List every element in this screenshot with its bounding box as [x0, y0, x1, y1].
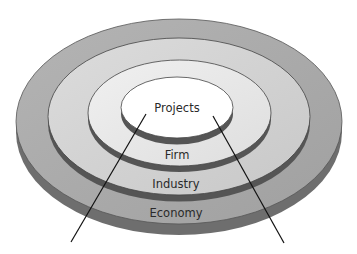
label-firm: Firm	[165, 148, 190, 162]
label-economy: Economy	[150, 206, 203, 220]
label-projects: Projects	[154, 101, 199, 115]
concentric-layers-diagram: Projects Firm Industry Economy	[0, 0, 357, 254]
label-industry: Industry	[152, 177, 199, 191]
